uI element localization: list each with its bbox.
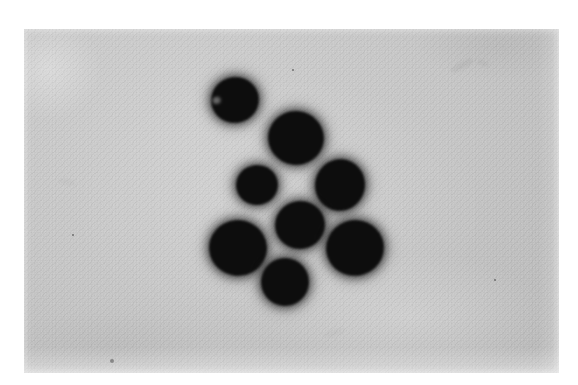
particle-cluster bbox=[24, 29, 559, 373]
particle-8 bbox=[259, 256, 310, 307]
particle-1 bbox=[207, 73, 264, 128]
micrograph-photo bbox=[24, 29, 559, 373]
photo-right-fade bbox=[537, 29, 559, 373]
particle-2 bbox=[265, 107, 328, 168]
particle-3 bbox=[234, 163, 279, 207]
photo-bottom-fade bbox=[24, 347, 559, 373]
screenshot-root bbox=[0, 0, 578, 385]
particle-7 bbox=[322, 215, 389, 280]
